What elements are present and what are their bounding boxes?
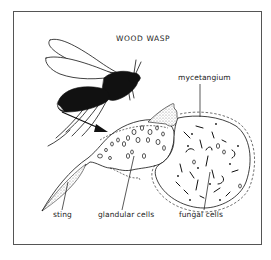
label-glandular-cells: glandular cells (98, 210, 154, 219)
label-fungal-cells: fungal cells (179, 210, 223, 219)
label-mycetangium: mycetangium (178, 73, 231, 82)
wood-wasp-illustration (0, 0, 271, 260)
label-sting: sting (53, 210, 72, 219)
